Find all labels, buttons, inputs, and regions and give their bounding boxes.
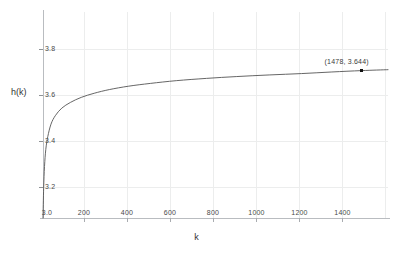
data-point-annotation: (1478, 3.644) — [325, 58, 369, 65]
data-curve — [0, 0, 403, 255]
chart-figure: 3.8 3.6 3.4 3.2 3.0 200 400 600 800 1000… — [0, 0, 403, 255]
data-point-marker — [360, 69, 363, 72]
x-axis-title: k — [0, 232, 403, 242]
x-axis-title-text: k — [194, 232, 199, 242]
y-axis-title: h(k) — [11, 87, 27, 97]
